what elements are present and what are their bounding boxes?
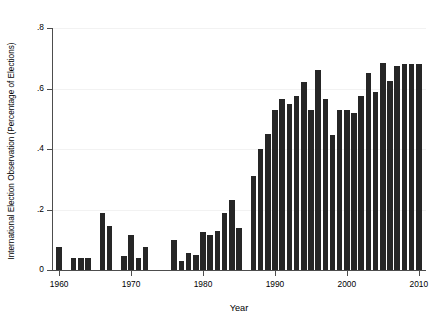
bar xyxy=(258,149,264,270)
bar xyxy=(351,113,357,270)
bar xyxy=(301,82,307,270)
bar xyxy=(251,176,257,270)
plot-area xyxy=(52,28,426,270)
y-axis-tick-label: .2 xyxy=(14,204,44,214)
bar xyxy=(128,235,134,270)
x-axis-tick xyxy=(419,271,420,276)
bar xyxy=(56,247,62,270)
bar xyxy=(402,64,408,270)
bar xyxy=(416,64,422,270)
bar xyxy=(394,66,400,270)
x-axis-tick-label: 1990 xyxy=(255,279,295,289)
bar xyxy=(330,135,336,270)
gridline-y xyxy=(52,28,426,29)
y-axis-tick-label: .8 xyxy=(14,22,44,32)
x-axis-tick xyxy=(347,271,348,276)
bar xyxy=(143,247,149,270)
y-axis-tick xyxy=(47,28,52,29)
x-axis-line xyxy=(52,270,426,271)
bar xyxy=(121,256,127,270)
bar xyxy=(265,134,271,270)
bar xyxy=(380,63,386,270)
y-axis-tick xyxy=(47,89,52,90)
x-axis-tick-label: 2010 xyxy=(399,279,433,289)
y-axis-line xyxy=(52,28,53,270)
bar xyxy=(344,110,350,270)
bar xyxy=(71,258,77,270)
x-axis-tick xyxy=(59,271,60,276)
x-axis-tick-label: 1980 xyxy=(183,279,223,289)
bar xyxy=(200,232,206,270)
y-axis-tick-label: 0 xyxy=(14,264,44,274)
x-axis-tick-label: 1970 xyxy=(111,279,151,289)
bar xyxy=(323,99,329,270)
bar xyxy=(78,258,84,270)
bar xyxy=(85,258,91,270)
bar xyxy=(215,231,221,270)
x-axis-tick-label: 1960 xyxy=(39,279,79,289)
bar xyxy=(373,92,379,270)
y-axis-tick xyxy=(47,149,52,150)
bar xyxy=(222,213,228,270)
bar xyxy=(287,104,293,270)
bar xyxy=(229,200,235,270)
bar xyxy=(179,261,185,270)
bar xyxy=(272,110,278,270)
bar xyxy=(387,81,393,270)
bar xyxy=(136,258,142,270)
y-axis-tick-label: .4 xyxy=(14,143,44,153)
x-axis-title: Year xyxy=(52,303,426,313)
bar xyxy=(315,70,321,270)
bar xyxy=(358,96,364,270)
bar xyxy=(279,99,285,270)
x-axis-tick xyxy=(203,271,204,276)
x-axis-tick xyxy=(131,271,132,276)
x-axis-tick-label: 2000 xyxy=(327,279,367,289)
bar xyxy=(171,240,177,270)
y-axis-tick xyxy=(47,210,52,211)
bar xyxy=(207,235,213,270)
bar xyxy=(107,226,113,270)
x-axis-tick xyxy=(275,271,276,276)
bar xyxy=(186,253,192,270)
bar xyxy=(409,64,415,270)
bar xyxy=(236,228,242,270)
bar xyxy=(337,110,343,270)
bar xyxy=(193,255,199,270)
y-axis-tick-label: .6 xyxy=(14,83,44,93)
y-axis-tick xyxy=(47,270,52,271)
bar xyxy=(294,96,300,270)
bar xyxy=(366,73,372,270)
bar xyxy=(308,110,314,270)
bar xyxy=(100,213,106,270)
